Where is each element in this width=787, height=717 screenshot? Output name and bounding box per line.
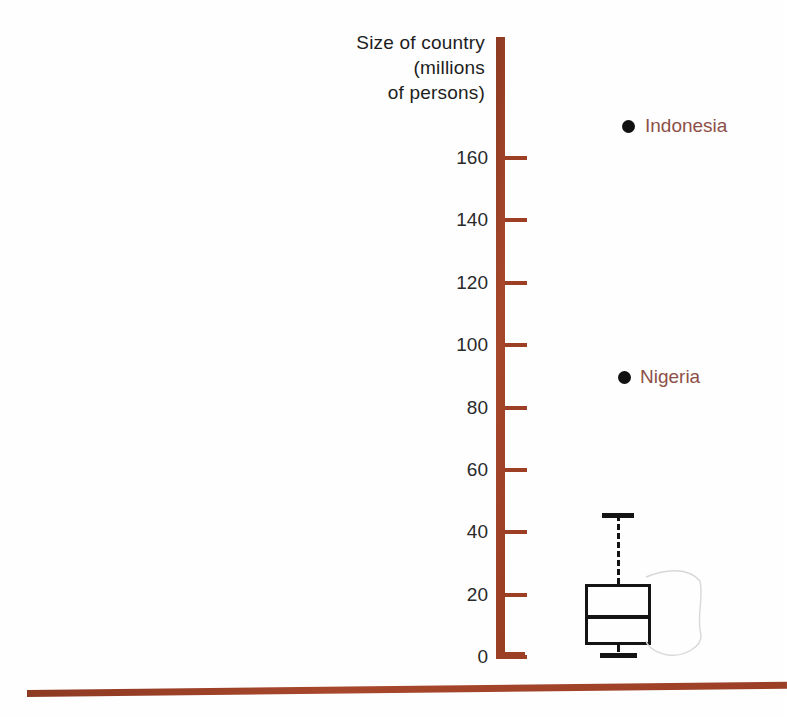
y-tick-100: [505, 343, 527, 347]
y-tick-label-20: 20: [418, 585, 488, 604]
y-axis-title-line-3: of persons): [300, 80, 485, 105]
bottom-baseline: [27, 682, 787, 697]
y-tick-40: [505, 530, 527, 534]
y-tick-0: [505, 655, 527, 659]
y-axis-line: [496, 37, 505, 659]
y-tick-120: [505, 281, 527, 285]
y-tick-label-160: 160: [418, 148, 488, 167]
y-tick-160: [505, 156, 527, 160]
y-axis-title: Size of country (millions of persons): [300, 30, 485, 105]
y-tick-label-40: 40: [418, 522, 488, 541]
y-tick-label-80: 80: [418, 398, 488, 417]
y-tick-60: [505, 468, 527, 472]
whisker-upper: [617, 515, 620, 584]
y-tick-label-100: 100: [418, 335, 488, 354]
y-axis-title-line-2: (millions: [300, 55, 485, 80]
y-tick-label-60: 60: [418, 460, 488, 479]
whisker-lower: [617, 645, 620, 652]
outlier-label-nigeria: Nigeria: [640, 367, 700, 386]
outlier-label-indonesia: Indonesia: [645, 116, 727, 135]
y-tick-label-0: 0: [418, 647, 488, 666]
y-tick-20: [505, 593, 527, 597]
y-tick-label-120: 120: [418, 273, 488, 292]
outlier-dot-indonesia: [622, 120, 635, 133]
y-tick-label-140: 140: [418, 210, 488, 229]
outlier-dot-nigeria: [618, 371, 631, 384]
median-line: [585, 615, 651, 619]
whisker-cap-lower: [600, 653, 637, 658]
y-tick-80: [505, 406, 527, 410]
y-axis-title-line-1: Size of country: [300, 30, 485, 55]
scan-artifact: [644, 565, 706, 663]
y-tick-140: [505, 218, 527, 222]
